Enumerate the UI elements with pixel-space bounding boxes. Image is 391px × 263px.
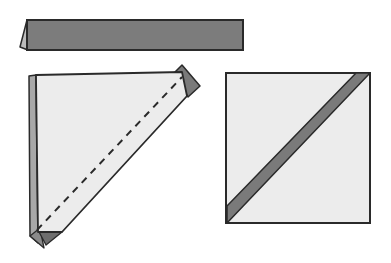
diagram-svg <box>0 0 391 263</box>
result-square <box>226 73 370 223</box>
folded-triangle <box>29 65 200 248</box>
folded-strip <box>20 20 243 50</box>
folding-diagram <box>0 0 391 263</box>
strip-body <box>27 20 243 50</box>
